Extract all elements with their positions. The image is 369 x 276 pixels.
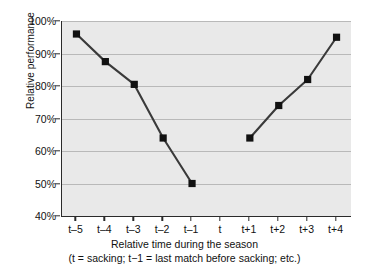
data-point-marker [102, 58, 109, 65]
data-point-marker [333, 34, 340, 41]
y-axis-tick-mark [55, 150, 60, 151]
data-point-marker [131, 81, 138, 88]
x-axis-tick-mark [75, 216, 76, 221]
x-axis-tick-label: t+2 [270, 223, 285, 235]
data-series-layer [62, 21, 351, 216]
x-axis-title-note: (t = sacking; t−1 = last match before sa… [0, 252, 369, 264]
y-axis-tick-marks [0, 21, 61, 216]
x-axis-tick-label: t–3 [126, 223, 141, 235]
data-point-marker [73, 30, 80, 37]
data-point-marker [188, 180, 195, 187]
series-line [76, 34, 336, 184]
x-axis-tick-mark [104, 216, 105, 221]
y-axis-tick-mark [55, 118, 60, 119]
series-markers [73, 30, 340, 187]
x-axis-tick-label: t [218, 223, 221, 235]
x-axis-tick-label: t–2 [155, 223, 170, 235]
x-axis-tick-label: t–1 [184, 223, 199, 235]
y-axis-tick-mark [55, 85, 60, 86]
plot-area [61, 21, 351, 217]
x-axis-tick-label: t–5 [68, 223, 83, 235]
data-point-marker [275, 102, 282, 109]
y-axis-tick-mark [55, 215, 60, 216]
data-point-marker [304, 76, 311, 83]
x-axis-tick-label: t+3 [299, 223, 314, 235]
x-axis-tick-mark [306, 216, 307, 221]
x-axis-tick-mark [277, 216, 278, 221]
x-axis-title: Relative time during the season [0, 238, 369, 250]
y-axis-tick-mark [55, 20, 60, 21]
x-axis-tick-label: t–4 [97, 223, 112, 235]
series-line-segment [76, 34, 192, 184]
x-axis-tick-label: t+1 [241, 223, 256, 235]
data-point-marker [160, 134, 167, 141]
x-axis-tick-mark [161, 216, 162, 221]
series-line-segment [250, 37, 337, 138]
y-axis-tick-mark [55, 183, 60, 184]
y-axis-tick-mark [55, 53, 60, 54]
x-axis-tick-mark [190, 216, 191, 221]
data-point-marker [246, 134, 253, 141]
x-axis-tick-mark [133, 216, 134, 221]
x-axis-tick-mark [219, 216, 220, 221]
x-axis-tick-mark [248, 216, 249, 221]
x-axis-tick-mark [335, 216, 336, 221]
x-axis-tick-label: t+4 [328, 223, 343, 235]
relative-performance-line-chart: Relative performance 40%50%60%70%80%90%1… [0, 0, 369, 276]
